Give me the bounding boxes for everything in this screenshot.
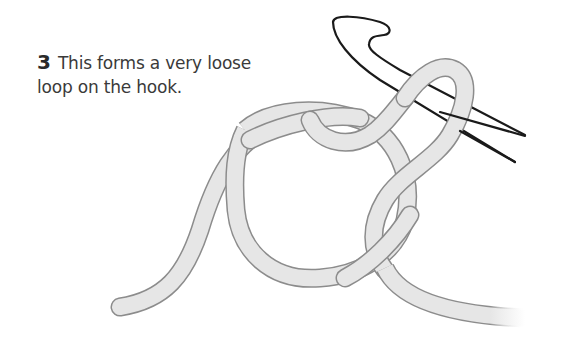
step-caption: 3 This forms a very loose loop on the ho… — [37, 50, 257, 99]
step-text-line2: loop on the hook. — [37, 77, 182, 97]
step-number: 3 — [37, 50, 51, 74]
yarn-strand — [120, 68, 525, 318]
step-text-line1: This forms a very loose — [58, 53, 251, 73]
